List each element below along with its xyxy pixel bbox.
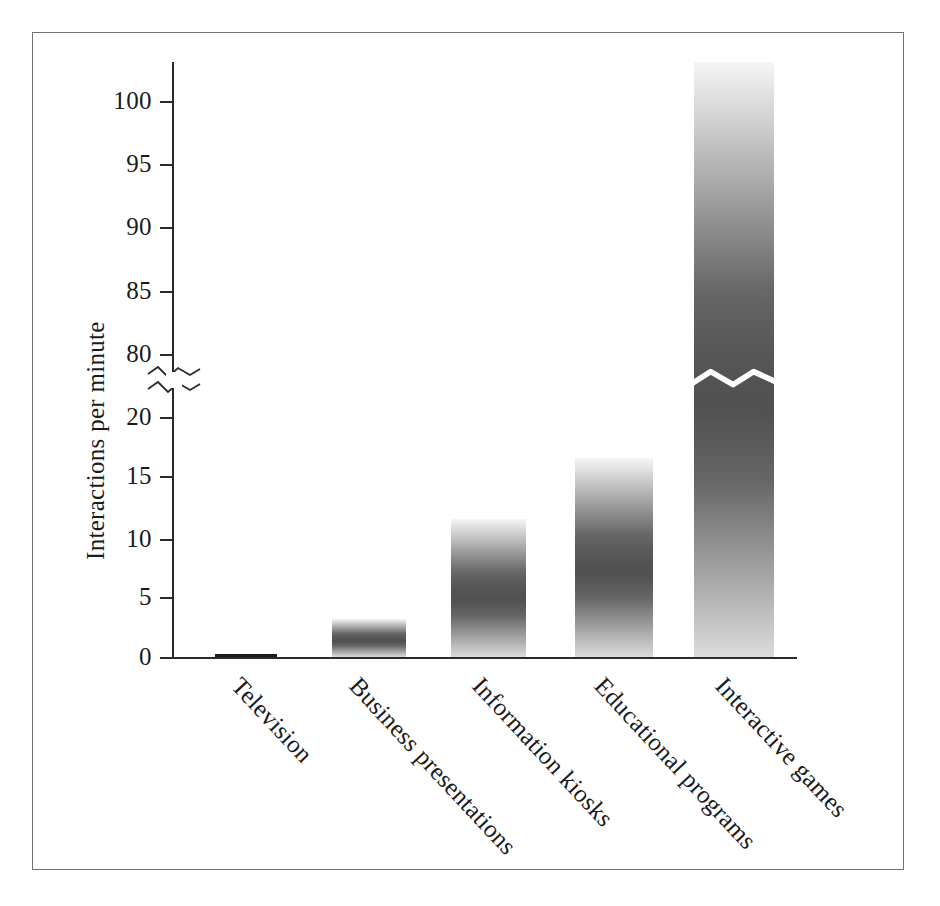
y-axis-tick-label: 90 (2, 214, 152, 239)
bar[interactable] (451, 519, 526, 657)
y-axis-tick-label: 85 (2, 278, 152, 303)
y-axis-tick-mark (160, 476, 172, 478)
figure-root: Interactions per minute 1009590858020151… (0, 0, 940, 906)
y-axis-tick-mark (160, 101, 172, 103)
y-axis-tick-mark (160, 539, 172, 541)
y-axis-tick-label: 5 (2, 584, 152, 609)
bar-chart-plot: Interactions per minute 1009590858020151… (0, 0, 940, 906)
y-axis-tick-label: 10 (2, 526, 152, 551)
y-axis-tick-mark (160, 657, 172, 659)
y-axis-tick-label: 80 (2, 341, 152, 366)
y-axis-tick-label: 0 (2, 644, 152, 669)
bar[interactable] (215, 654, 277, 657)
y-axis-tick-mark (160, 354, 172, 356)
bar[interactable] (332, 619, 406, 657)
bar[interactable] (575, 458, 653, 657)
axis-break-icon (146, 360, 202, 398)
x-axis-category-label: Interactive games (710, 672, 854, 823)
y-axis-tick-mark (160, 417, 172, 419)
y-axis-tick-mark (160, 597, 172, 599)
y-axis-line (172, 62, 174, 659)
y-axis-tick-mark (160, 164, 172, 166)
y-axis-tick-mark (160, 291, 172, 293)
y-axis-tick-label: 95 (2, 151, 152, 176)
y-axis-tick-label: 100 (2, 88, 152, 113)
x-axis-line (172, 657, 797, 659)
bar[interactable] (694, 62, 774, 657)
y-axis-tick-mark (160, 227, 172, 229)
x-axis-category-label: Television (226, 672, 319, 768)
y-axis-tick-label: 15 (2, 463, 152, 488)
y-axis-tick-label: 20 (2, 404, 152, 429)
